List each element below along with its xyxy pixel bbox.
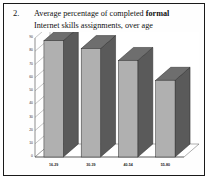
figure-frame: 2. Average percentage of completed forma… [3, 3, 205, 176]
y-tick-label: 70 [24, 63, 33, 66]
x-tick-label: 55-80 [154, 163, 176, 167]
caption-line-1-normal: Average percentage of completed [34, 9, 146, 18]
y-tick-label: 80 [24, 49, 33, 52]
caption-line-1-bold: formal [146, 9, 170, 18]
figure-caption: 2. Average percentage of completed forma… [4, 8, 206, 34]
y-tick-label: 50 [24, 89, 33, 92]
caption-line-2: Internet skills assignments, over age [34, 20, 202, 32]
y-tick-label: 30 [24, 116, 33, 119]
chart-canvas [8, 32, 202, 175]
x-tick-label: 30-39 [80, 163, 102, 167]
y-tick-label: 20 [24, 129, 33, 132]
y-tick-label: 60 [24, 76, 33, 79]
bar-16-29 [44, 32, 78, 157]
bar-chart: 0102030405060708090 16-2930-3940-5455-80 [8, 32, 202, 175]
caption-line-1: Average percentage of completed formal [34, 8, 202, 20]
x-tick-label: 40-54 [117, 163, 139, 167]
bar-40-54 [118, 47, 152, 157]
caption-text: Average percentage of completed formal I… [34, 8, 202, 31]
figure-number: 2. [13, 8, 19, 18]
y-tick-label: 90 [24, 36, 33, 39]
bar-30-39 [81, 36, 115, 157]
y-tick-label: 10 [24, 142, 33, 145]
x-tick-label: 16-29 [43, 163, 65, 167]
bar-55-80 [156, 67, 190, 157]
y-tick-label: 40 [24, 102, 33, 105]
y-tick-label: 0 [24, 155, 33, 158]
